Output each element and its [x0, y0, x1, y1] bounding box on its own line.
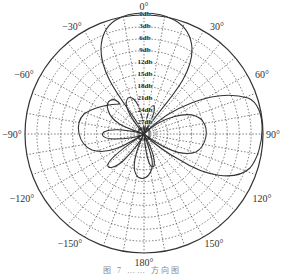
angle-label-minus60: −60°: [14, 69, 34, 80]
angle-label-120: 120°: [253, 193, 272, 204]
angle-label-minus120: −120°: [10, 193, 35, 204]
radial-label-27db: 27db: [138, 119, 153, 126]
angle-label-150: 150°: [205, 238, 224, 249]
radial-label-6db: 6db: [139, 35, 150, 42]
radial-label-0db: 0db: [139, 11, 150, 18]
radial-label-3db: 3db: [139, 23, 150, 30]
radial-label-15db: 15db: [138, 71, 153, 78]
angle-label-60: 60°: [255, 69, 269, 80]
angle-label-minus150: −150°: [58, 238, 83, 249]
angle-label-90: 90°: [266, 129, 280, 140]
pattern-curve: [78, 13, 262, 178]
angle-label-minus30: −30°: [62, 21, 82, 32]
angle-label-minus90: −90°: [2, 129, 22, 140]
angle-label-30: 30°: [210, 21, 224, 32]
radial-label-9db: 9db: [139, 47, 150, 54]
radial-label-21db: 21db: [138, 95, 153, 102]
figure-caption: 图 7 …… 方向图: [0, 264, 284, 275]
radial-label-24db: 24db: [138, 107, 153, 114]
radial-label-18db: 18db: [138, 83, 153, 90]
radial-label-12db: 12db: [138, 59, 153, 66]
